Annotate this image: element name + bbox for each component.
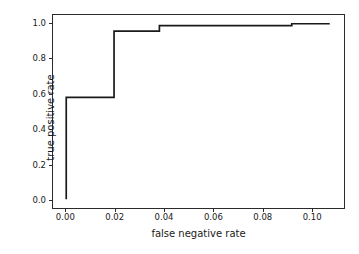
roc-curve-line [53, 15, 344, 208]
roc-curve-figure: 0.000.020.040.060.080.10 0.00.20.40.60.8… [0, 0, 359, 254]
x-axis-label: false negative rate [52, 228, 345, 239]
x-tick-label: 0.04 [155, 212, 174, 222]
y-tick-label: 0.4 [32, 124, 46, 134]
y-tick-label: 0.0 [32, 195, 46, 205]
y-axis-label: true positive rate [45, 20, 56, 215]
x-tick-label: 0.10 [303, 212, 322, 222]
y-tick-label: 0.6 [32, 89, 46, 99]
y-tick-label: 0.2 [32, 160, 46, 170]
x-tick-label: 0.02 [105, 212, 124, 222]
y-tick-label: 0.8 [32, 53, 46, 63]
plot-area [52, 14, 345, 209]
y-tick-label: 1.0 [32, 18, 46, 28]
x-tick-label: 0.06 [204, 212, 223, 222]
x-tick-label: 0.08 [253, 212, 272, 222]
x-tick-label: 0.00 [56, 212, 75, 222]
